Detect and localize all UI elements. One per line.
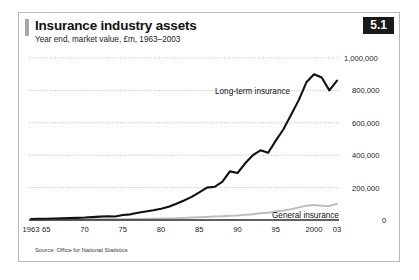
x-axis-tick-label: 65: [42, 225, 50, 234]
y-axis-tick-labels: 0200,000400,000600,000800,0001,000,000: [344, 53, 396, 228]
y-axis-tick-label: 600,000: [352, 119, 379, 128]
x-axis-tick-label: 80: [157, 225, 165, 234]
figure-number-badge: 5.1: [363, 17, 394, 34]
y-axis-tick-label: 1,000,000: [344, 54, 378, 63]
chart-plot-area: [29, 53, 339, 223]
annotation-general-insurance: General insurance: [272, 211, 339, 220]
x-axis-tick-label: 95: [272, 225, 280, 234]
y-axis-tick-label: 200,000: [352, 184, 379, 193]
y-axis-tick-label: 0: [382, 216, 386, 225]
source-note: Source: Office for National Statistics: [35, 247, 128, 253]
x-axis-tick-label: 70: [80, 225, 88, 234]
chart-subtitle: Year end, market value, £m, 1963–2003: [35, 35, 180, 44]
y-axis-tick-label: 400,000: [352, 151, 379, 160]
page-title: Insurance industry assets: [35, 18, 197, 33]
x-axis-tick-label: 85: [195, 225, 203, 234]
figure-panel: Insurance industry assets Year end, mark…: [18, 12, 400, 262]
x-axis-tick-label: 03: [333, 225, 341, 234]
chart-svg: [29, 53, 339, 225]
y-axis-tick-label: 800,000: [352, 86, 379, 95]
x-axis-tick-label: 2000: [306, 225, 323, 234]
chart-gridlines: [29, 58, 339, 188]
figure-header: Insurance industry assets Year end, mark…: [19, 13, 399, 55]
annotation-long-term-insurance: Long-term insurance: [215, 87, 290, 96]
title-accent-bar: [25, 19, 29, 36]
x-axis-tick-label: 75: [119, 225, 127, 234]
x-axis-tick-labels: 196365707580859095200003: [29, 225, 339, 237]
x-axis-tick-label: 1963: [23, 225, 40, 234]
x-axis-tick-label: 90: [233, 225, 241, 234]
series-line-long-term-insurance: [31, 74, 337, 219]
